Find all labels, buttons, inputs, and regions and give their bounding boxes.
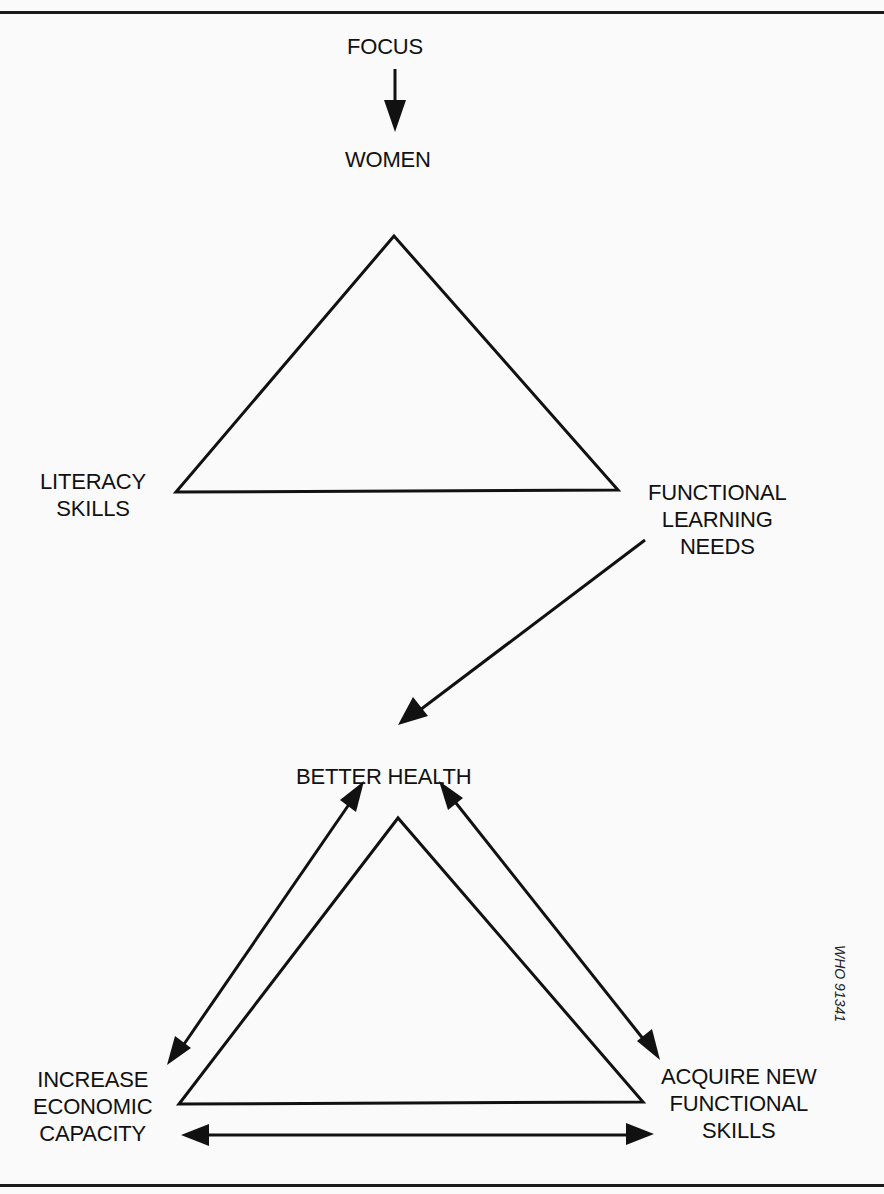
label-line: SKILLS bbox=[40, 495, 146, 522]
arrowhead-left-icon bbox=[181, 1124, 209, 1146]
functional-learning-needs-label: FUNCTIONAL LEARNING NEEDS bbox=[648, 479, 787, 560]
who-reference-code: WHO 91341 bbox=[832, 945, 848, 1022]
label-line: ECONOMIC bbox=[33, 1093, 152, 1120]
increase-economic-capacity-label: INCREASE ECONOMIC CAPACITY bbox=[33, 1066, 152, 1147]
literacy-skills-label: LITERACY SKILLS bbox=[40, 468, 146, 522]
lower-triangle bbox=[179, 818, 643, 1104]
label-line: INCREASE bbox=[33, 1066, 152, 1093]
upper-triangle bbox=[176, 236, 618, 492]
acquire-new-functional-skills-label: ACQUIRE NEW FUNCTIONAL SKILLS bbox=[661, 1063, 816, 1144]
economic-skills-double-arrow bbox=[181, 1123, 654, 1146]
label-line: BETTER HEALTH bbox=[296, 763, 471, 790]
health-skills-double-arrow bbox=[439, 781, 660, 1060]
health-economic-double-arrow bbox=[167, 781, 364, 1065]
label-line: LEARNING bbox=[648, 506, 787, 533]
focus-label: FOCUS bbox=[347, 33, 423, 60]
women-label: WOMEN bbox=[345, 146, 431, 173]
diagram-canvas bbox=[0, 0, 884, 1194]
arrowhead-down-icon bbox=[384, 100, 406, 132]
needs-to-health-arrow bbox=[398, 540, 645, 725]
label-line: FUNCTIONAL bbox=[648, 479, 787, 506]
better-health-label: BETTER HEALTH bbox=[296, 763, 471, 790]
label-line: SKILLS bbox=[661, 1117, 816, 1144]
focus-text: FOCUS bbox=[347, 33, 423, 60]
label-line: NEEDS bbox=[648, 533, 787, 560]
focus-to-women-arrow bbox=[384, 69, 406, 132]
label-line: ACQUIRE NEW bbox=[661, 1063, 816, 1090]
label-line: LITERACY bbox=[40, 468, 146, 495]
label-line: FUNCTIONAL bbox=[661, 1090, 816, 1117]
arrowhead-icon bbox=[398, 697, 428, 725]
label-line: CAPACITY bbox=[33, 1120, 152, 1147]
women-text: WOMEN bbox=[345, 146, 431, 173]
arrowhead-right-icon bbox=[626, 1123, 654, 1145]
